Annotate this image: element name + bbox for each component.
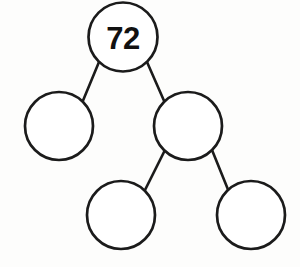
root-node[interactable]: 72 (89, 3, 158, 72)
node-group: 72 (25, 3, 285, 250)
left-child-node[interactable] (25, 92, 93, 160)
diagram-canvas: 72 (0, 0, 300, 267)
edge-root-to-right (147, 62, 165, 103)
right-left-grandchild-node-circle[interactable] (87, 181, 155, 249)
edge-root-to-left (82, 62, 99, 103)
right-left-grandchild-node[interactable] (87, 181, 155, 249)
edge-right-to-left-child (144, 150, 165, 192)
right-right-grandchild-node[interactable] (217, 181, 285, 249)
right-child-node-circle[interactable] (154, 92, 222, 160)
edge-right-to-right-child (212, 150, 229, 192)
left-child-node-circle[interactable] (25, 92, 93, 160)
factor-tree-diagram: 72 (0, 0, 300, 267)
right-child-node[interactable] (154, 92, 222, 160)
root-node-label: 72 (106, 21, 139, 56)
right-right-grandchild-node-circle[interactable] (217, 181, 285, 249)
